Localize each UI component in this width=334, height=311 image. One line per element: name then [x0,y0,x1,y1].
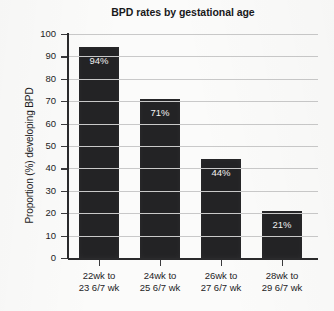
y-axis-tick-label: 50 [26,141,56,151]
plot-area: 94%71%44%21% [68,34,318,258]
y-axis-line [67,33,69,259]
gridline [68,213,318,214]
bar-value-label: 44% [201,167,241,178]
x-axis-baseline [68,258,318,260]
y-axis-tick-label: 40 [26,163,56,173]
x-axis-tick [160,259,161,266]
y-axis-tick-label: 70 [26,96,56,106]
x-axis-tick [282,259,283,266]
y-axis-tick-label: 30 [26,186,56,196]
y-axis-label: Proportion (%) developing BPD [24,56,35,256]
y-axis-tick-label: 10 [26,231,56,241]
x-axis-tick [99,259,100,266]
x-axis-tick [221,259,222,266]
bar-value-label: 21% [262,219,302,230]
y-axis-tick-label: 0 [26,253,56,263]
gridline [68,236,318,237]
gridline [68,79,318,80]
y-axis-tick-label: 90 [26,51,56,61]
gridline [68,101,318,102]
y-axis-tick-label: 100 [26,29,56,39]
gridline [68,146,318,147]
gridline [68,191,318,192]
chart-title: BPD rates by gestational age [0,6,334,18]
x-axis-tick-label-line: 28wk to [245,270,319,282]
y-axis-tick-label: 80 [26,74,56,84]
bar-chart-figure: BPD rates by gestational age Proportion … [0,0,334,311]
gridline [68,34,318,35]
bar-value-label: 94% [79,55,119,66]
y-axis-tick-label: 60 [26,119,56,129]
bar-value-label: 71% [140,107,180,118]
x-axis-tick-label: 28wk to29 6/7 wk [245,270,319,293]
gridline [68,168,318,169]
gridline [68,124,318,125]
y-axis-tick-label: 20 [26,208,56,218]
x-axis-tick-label-line: 29 6/7 wk [245,282,319,294]
